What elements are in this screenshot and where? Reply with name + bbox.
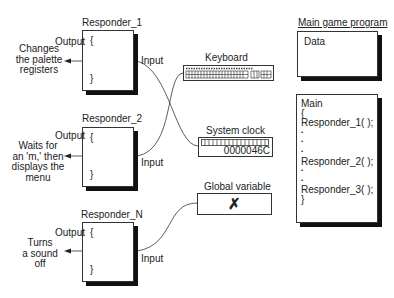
responderN-box: { }: [82, 222, 134, 282]
open-brace: {: [90, 36, 93, 46]
data-label: Data: [304, 36, 325, 47]
responder2-output-label: Output: [55, 130, 85, 141]
main-code-listing: Main { Responder_1( ); • • • Responder_2…: [301, 99, 373, 205]
code-line: Responder_2( );: [301, 157, 373, 167]
responder1-input-label: Input: [141, 55, 163, 66]
system-clock-value: 0000046C: [224, 145, 270, 156]
responder2-description: Waits for an 'm,' then displays the menu: [10, 141, 66, 183]
close-brace: }: [90, 170, 93, 180]
output-arrow-icon: [64, 59, 71, 64]
main-code-box: Main { Responder_1( ); • • • Responder_2…: [296, 94, 378, 223]
close-brace: }: [90, 74, 93, 84]
responder1-title: Responder_1: [82, 17, 142, 28]
responderN-output-label: Output: [55, 227, 85, 238]
system-clock-label: System clock: [206, 125, 265, 136]
responder1-box: { }: [82, 30, 134, 91]
keyboard-label: Keyboard: [205, 52, 248, 63]
responderN-description: Turns a sound off: [20, 238, 60, 270]
responder2-box: { }: [82, 127, 134, 187]
responder2-title: Responder_2: [82, 113, 142, 124]
responder2-input-label: Input: [141, 157, 163, 168]
code-line: Responder_1( );: [301, 118, 373, 128]
open-brace: {: [90, 133, 93, 143]
code-line: •: [301, 137, 373, 147]
global-variable-box: ✗: [197, 193, 272, 215]
code-line: }: [301, 195, 373, 205]
code-line: Main: [301, 99, 373, 109]
responderN-title: Responder_N: [81, 209, 143, 220]
global-variable-label: Global variable: [204, 181, 271, 192]
main-program-title: Main game program: [298, 17, 387, 28]
code-line: Responder_3( );: [301, 185, 373, 195]
code-line: •: [301, 166, 373, 176]
responder1-description: Changes the palette registers: [14, 44, 64, 76]
system-clock-box: 0000046C: [198, 137, 273, 157]
code-line: •: [301, 128, 373, 138]
keyboard-icon: [183, 65, 274, 82]
responderN-input-label: Input: [141, 253, 163, 264]
global-variable-value: ✗: [228, 195, 241, 212]
open-brace: {: [90, 228, 93, 238]
close-brace: }: [90, 265, 93, 275]
data-box: Data: [297, 31, 378, 77]
output-arrow-icon: [64, 249, 71, 254]
